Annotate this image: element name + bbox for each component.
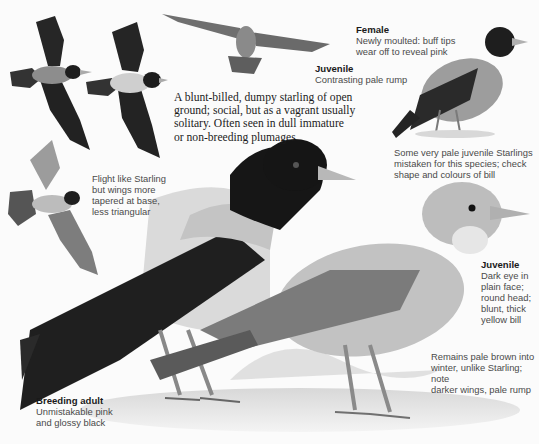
label-juvenile-flight-text: Contrasting pale rump <box>315 74 407 85</box>
label-juvenile-flight: Juvenile Contrasting pale rump <box>315 63 407 85</box>
field-guide-plate: A blunt-billed, dumpy starling of open g… <box>0 0 539 444</box>
label-flight-text: Flight like Starling but wings more tape… <box>92 173 166 217</box>
label-pale-starlings-text: Some very pale juvenile Starlings mistak… <box>394 147 533 180</box>
species-description: A blunt-billed, dumpy starling of open g… <box>174 91 374 144</box>
label-breeding-adult-title: Breeding adult <box>36 395 113 406</box>
label-female: Female Newly moulted: buff tips wear off… <box>356 24 455 57</box>
label-juvenile-flight-title: Juvenile <box>315 63 407 74</box>
flying-bird-underside <box>8 140 98 275</box>
label-juvenile-title: Juvenile <box>481 259 531 270</box>
label-breeding-adult-text: Unmistakable pink and glossy black <box>36 406 113 428</box>
flying-adult-bird-2 <box>86 22 168 158</box>
label-juvenile: Juvenile Dark eye in plain face; round h… <box>481 259 531 325</box>
label-winter: Remains pale brown into winter, unlike S… <box>431 351 539 395</box>
label-flight: Flight like Starling but wings more tape… <box>92 173 166 217</box>
label-juvenile-text: Dark eye in plain face; round head; blun… <box>481 270 531 325</box>
flying-juvenile-bird <box>162 14 330 74</box>
label-pale-starlings: Some very pale juvenile Starlings mistak… <box>394 147 533 180</box>
label-breeding-adult: Breeding adult Unmistakable pink and glo… <box>36 395 113 428</box>
label-female-title: Female <box>356 24 455 35</box>
flying-adult-bird-1 <box>10 16 92 150</box>
label-winter-text: Remains pale brown into winter, unlike S… <box>431 351 539 395</box>
label-female-text: Newly moulted: buff tips wear off to rev… <box>356 35 455 57</box>
